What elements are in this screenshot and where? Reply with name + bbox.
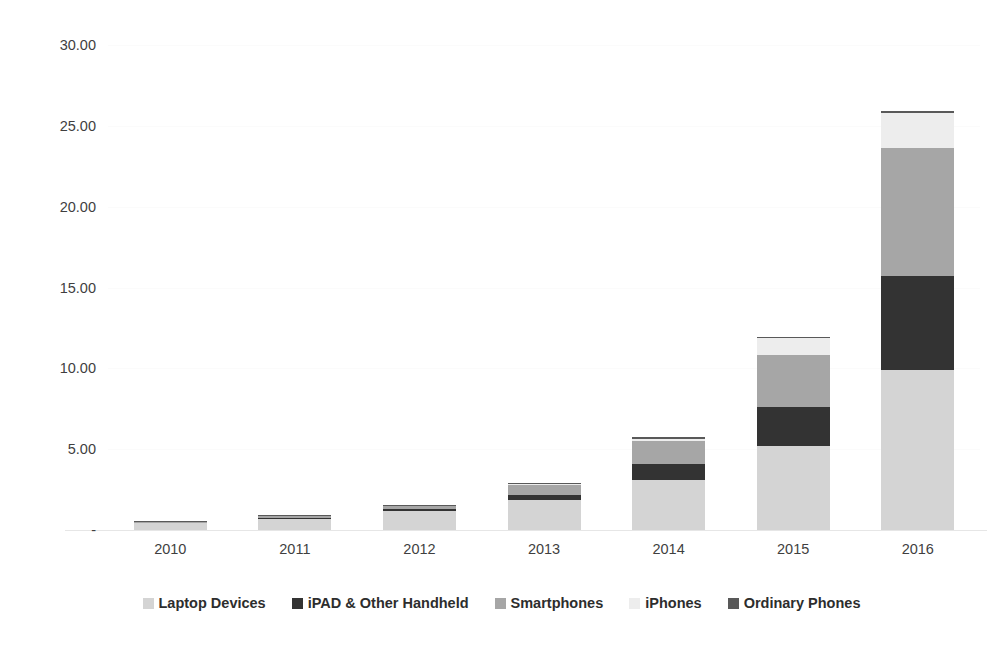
- x-axis: 2010201120122013201420152016: [108, 538, 980, 562]
- bar-segment[interactable]: [881, 370, 954, 530]
- bar-segment[interactable]: [757, 446, 830, 530]
- bar-segment[interactable]: [134, 521, 207, 522]
- bar-segment[interactable]: [383, 511, 456, 530]
- y-axis-tick-label: -: [24, 523, 96, 538]
- x-axis-tick-label: 2015: [731, 538, 856, 562]
- legend-swatch-icon: [292, 598, 303, 609]
- y-axis-tick-label: 5.00: [24, 442, 96, 457]
- bar-segment[interactable]: [258, 516, 331, 518]
- bar-segment[interactable]: [508, 500, 581, 530]
- legend-item[interactable]: iPhones: [629, 596, 701, 611]
- y-axis: -5.0010.0015.0020.0025.0030.00: [0, 0, 96, 645]
- bar-column[interactable]: [508, 45, 581, 530]
- bar-segment[interactable]: [258, 519, 331, 530]
- bar-segment[interactable]: [881, 113, 954, 149]
- legend-label: Smartphones: [511, 596, 604, 611]
- x-axis-tick-label: 2010: [108, 538, 233, 562]
- bar-segment[interactable]: [632, 480, 705, 530]
- x-axis-tick-label: 2011: [233, 538, 358, 562]
- plot-area: [108, 45, 980, 530]
- bar-segment[interactable]: [383, 509, 456, 511]
- bar-stack: [258, 45, 331, 530]
- legend-swatch-icon: [728, 598, 739, 609]
- bar-segment[interactable]: [632, 439, 705, 441]
- bar-segment[interactable]: [757, 337, 830, 339]
- bar-column[interactable]: [632, 45, 705, 530]
- bar-column[interactable]: [757, 45, 830, 530]
- bar-segment[interactable]: [632, 441, 705, 464]
- bar-segment[interactable]: [757, 355, 830, 407]
- bar-segment[interactable]: [383, 505, 456, 506]
- legend-swatch-icon: [495, 598, 506, 609]
- bar-stack: [757, 45, 830, 530]
- legend-swatch-icon: [629, 598, 640, 609]
- legend-swatch-icon: [143, 598, 154, 609]
- legend-label: Ordinary Phones: [744, 596, 861, 611]
- bar-stack: [881, 45, 954, 530]
- x-axis-tick-label: 2013: [482, 538, 607, 562]
- bar-segment[interactable]: [881, 111, 954, 113]
- bar-segment[interactable]: [508, 495, 581, 500]
- y-axis-tick-label: 25.00: [24, 119, 96, 134]
- bar-segment[interactable]: [757, 338, 830, 355]
- legend-label: iPhones: [645, 596, 701, 611]
- bar-segment[interactable]: [881, 148, 954, 276]
- bar-segment[interactable]: [632, 437, 705, 439]
- legend-label: Laptop Devices: [159, 596, 266, 611]
- legend-item[interactable]: Laptop Devices: [143, 596, 266, 611]
- bar-column[interactable]: [134, 45, 207, 530]
- y-axis-tick-label: 30.00: [24, 38, 96, 53]
- bar-column[interactable]: [258, 45, 331, 530]
- stacked-bar-chart: -5.0010.0015.0020.0025.0030.00 201020112…: [0, 0, 1003, 645]
- bar-stack: [134, 45, 207, 530]
- bar-segment[interactable]: [757, 407, 830, 446]
- x-axis-tick-label: 2012: [357, 538, 482, 562]
- bar-segment[interactable]: [258, 515, 331, 516]
- chart-legend: Laptop DevicesiPAD & Other HandheldSmart…: [0, 596, 1003, 611]
- legend-item[interactable]: Ordinary Phones: [728, 596, 861, 611]
- x-axis-tick-label: 2016: [855, 538, 980, 562]
- bar-stack: [383, 45, 456, 530]
- bar-segment[interactable]: [508, 483, 581, 484]
- legend-item[interactable]: iPAD & Other Handheld: [292, 596, 469, 611]
- bar-segment[interactable]: [383, 506, 456, 509]
- y-axis-tick-label: 10.00: [24, 361, 96, 376]
- bar-column[interactable]: [881, 45, 954, 530]
- bar-segment[interactable]: [258, 518, 331, 519]
- bar-column[interactable]: [383, 45, 456, 530]
- bar-stack: [508, 45, 581, 530]
- legend-item[interactable]: Smartphones: [495, 596, 604, 611]
- bar-segment[interactable]: [632, 464, 705, 480]
- bar-segment[interactable]: [508, 485, 581, 496]
- bar-segment[interactable]: [881, 276, 954, 370]
- y-axis-tick-label: 15.00: [24, 281, 96, 296]
- legend-label: iPAD & Other Handheld: [308, 596, 469, 611]
- bar-stack: [632, 45, 705, 530]
- bar-segment[interactable]: [134, 523, 207, 530]
- y-axis-tick-label: 20.00: [24, 200, 96, 215]
- x-axis-line: [65, 530, 987, 531]
- x-axis-tick-label: 2014: [606, 538, 731, 562]
